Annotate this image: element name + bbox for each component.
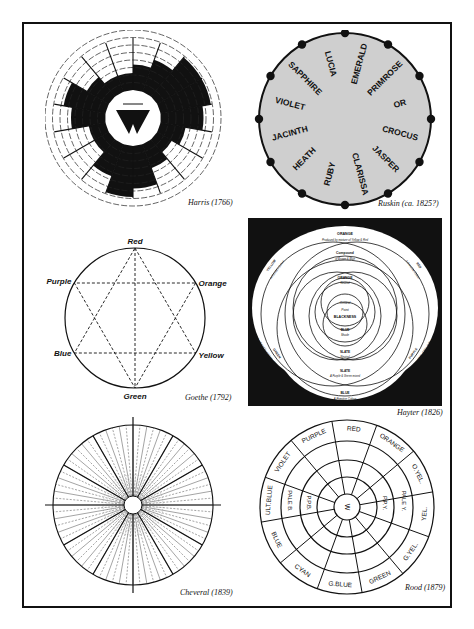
ruskin-dot bbox=[415, 72, 423, 80]
ruskin-dot bbox=[427, 115, 435, 123]
cheveral-minor-spoke bbox=[76, 511, 126, 561]
hayter-label: Neutral bbox=[340, 281, 349, 285]
ruskin-caption: Ruskin (ca. 1825?) bbox=[378, 199, 439, 208]
rood-outer-label: BLUE bbox=[270, 530, 284, 549]
rood-outer-label: ULT.BLUE bbox=[264, 484, 274, 515]
cheveral-minor-spoke bbox=[53, 506, 124, 512]
hayter-label: A Primitive Colour bbox=[333, 397, 357, 401]
hayter-label: SLATE bbox=[340, 369, 350, 373]
hayter-label: of Brown & Blue bbox=[335, 257, 355, 261]
hayter-color-diagram: ORANGEProduced by mixture of Yellow & Re… bbox=[248, 218, 442, 406]
goethe-label: Red bbox=[127, 237, 143, 246]
hayter-label: BLUE bbox=[340, 391, 350, 395]
rood-spoke bbox=[359, 511, 429, 536]
cheveral-major-spoke bbox=[93, 513, 129, 574]
hayter-label: Shade bbox=[341, 333, 350, 337]
cheveral-major-spoke bbox=[64, 465, 125, 501]
rood-outer-label: PURPLE bbox=[300, 427, 327, 445]
rood-spoke bbox=[317, 519, 342, 589]
cheveral-minor-spoke bbox=[142, 498, 213, 504]
rood-outer-label: RED bbox=[347, 424, 362, 432]
rood-inner-label: P.P.B. bbox=[306, 496, 312, 511]
ruskin-circle bbox=[259, 33, 431, 205]
cheveral-minor-spoke bbox=[134, 514, 140, 585]
cheveral-minor-spoke bbox=[126, 425, 132, 496]
rood-inner-label: PALE Y. bbox=[401, 491, 407, 512]
rood-inner-label: P.P.Y. bbox=[382, 496, 388, 511]
cheveral-major-spoke bbox=[141, 465, 202, 501]
cheveral-minor-spoke bbox=[140, 510, 198, 551]
ruskin-dot bbox=[415, 158, 423, 166]
cheveral-color-circle bbox=[40, 415, 230, 600]
cheveral-minor-spoke bbox=[87, 439, 128, 497]
cheveral-minor-spoke bbox=[119, 426, 131, 496]
ruskin-dot bbox=[266, 158, 274, 166]
cheveral-minor-spoke bbox=[139, 448, 189, 498]
cheveral-minor-spoke bbox=[141, 471, 205, 501]
ruskin-color-circle: EMERALDPRIMROSEORCROCUSJASPERCLARISSARUB… bbox=[250, 30, 445, 215]
rood-spoke bbox=[351, 425, 376, 495]
ruskin-dot bbox=[255, 115, 263, 123]
cheveral-minor-spoke bbox=[135, 426, 147, 496]
rood-outer-label: VIOLET bbox=[273, 450, 292, 473]
hayter-label: Produced by mixture of Yellow & Red bbox=[322, 238, 369, 242]
rood-outer-label: GREEN bbox=[368, 569, 392, 585]
rood-inner-label: PALE B. bbox=[287, 490, 293, 512]
goethe-label: Purple bbox=[46, 277, 71, 286]
goethe-label: Orange bbox=[199, 279, 228, 288]
rood-spoke bbox=[332, 421, 345, 494]
hayter-label: Central bbox=[340, 301, 351, 305]
ruskin-dot bbox=[384, 40, 392, 48]
rood-spoke bbox=[265, 477, 335, 502]
rood-outer-label: CYAN bbox=[294, 562, 313, 578]
cheveral-minor-spoke bbox=[76, 448, 126, 498]
cheveral-minor-spoke bbox=[142, 506, 213, 512]
goethe-caption: Goethe (1792) bbox=[185, 393, 231, 402]
rood-outer-label: ORANGE bbox=[379, 432, 407, 454]
rood-spoke bbox=[261, 509, 334, 522]
ruskin-dot bbox=[266, 72, 274, 80]
cheveral-minor-spoke bbox=[54, 507, 124, 519]
goethe-label: Yellow bbox=[199, 351, 225, 360]
harris-caption: Harris (1766) bbox=[188, 198, 233, 207]
hayter-label: Compound bbox=[336, 251, 354, 255]
cheveral-minor-spoke bbox=[99, 513, 129, 577]
hayter-label: Neutral bbox=[340, 355, 349, 359]
cheveral-minor-spoke bbox=[138, 512, 179, 570]
goethe-label: Blue bbox=[54, 349, 72, 358]
hayter-label: ORANGE bbox=[338, 276, 354, 280]
rood-caption: Rood (1879) bbox=[405, 583, 445, 592]
rood-outer-label: YEL. bbox=[420, 506, 428, 521]
hayter-label: SLATE bbox=[340, 350, 350, 354]
hayter-label: A Purple & Green mixed bbox=[329, 374, 360, 378]
cheveral-minor-spoke bbox=[67, 459, 125, 500]
goethe-color-circle: RedOrangeYellowGreenBluePurple bbox=[40, 230, 240, 410]
cheveral-major-spoke bbox=[141, 510, 202, 546]
cheveral-minor-spoke bbox=[137, 513, 167, 577]
cheveral-major-spoke bbox=[93, 436, 129, 497]
cheveral-major-spoke bbox=[138, 436, 174, 497]
hayter-label: Point bbox=[341, 308, 348, 312]
cheveral-minor-spoke bbox=[67, 510, 125, 551]
cheveral-minor-spoke bbox=[119, 514, 131, 584]
cheveral-minor-spoke bbox=[54, 491, 124, 503]
cheveral-minor-spoke bbox=[134, 425, 140, 496]
ruskin-dot bbox=[384, 189, 392, 197]
cheveral-major-spoke bbox=[138, 513, 174, 574]
cheveral-minor-spoke bbox=[142, 507, 212, 519]
cheveral-minor-spoke bbox=[140, 459, 198, 500]
cheveral-caption: Cheveral (1839) bbox=[180, 588, 233, 597]
hayter-label: BLUE bbox=[341, 328, 350, 332]
hayter-label: ORANGE bbox=[337, 232, 353, 236]
rood-spoke bbox=[360, 492, 433, 505]
goethe-label: Green bbox=[123, 392, 146, 401]
rood-outer-label: G.BLUE bbox=[328, 579, 353, 588]
rood-center-label: W bbox=[344, 504, 351, 511]
cheveral-minor-spoke bbox=[126, 514, 132, 585]
ruskin-dot bbox=[341, 201, 349, 209]
cheveral-center-circle bbox=[124, 496, 142, 514]
cheveral-minor-spoke bbox=[142, 491, 212, 503]
cheveral-minor-spoke bbox=[53, 498, 124, 504]
hayter-label: BLACKNESS bbox=[334, 315, 357, 319]
cheveral-minor-spoke bbox=[139, 511, 189, 561]
